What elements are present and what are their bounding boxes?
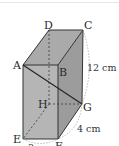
vertex-label-h: H: [38, 98, 48, 111]
prism-diagram: D C A B H G E F 12 cm 4 cm 3 cm: [0, 0, 119, 146]
vertex-label-b: B: [59, 66, 67, 79]
vertex-label-e: E: [13, 133, 21, 146]
vertex-label-g: G: [83, 101, 92, 114]
vertex-label-f: F: [55, 140, 63, 146]
vertex-label-a: A: [12, 59, 22, 72]
vertex-label-d: D: [44, 19, 53, 32]
vertex-label-c: C: [84, 19, 92, 32]
width-label: 3 cm: [28, 142, 51, 146]
depth-label: 4 cm: [77, 123, 100, 134]
height-label: 12 cm: [87, 62, 116, 73]
